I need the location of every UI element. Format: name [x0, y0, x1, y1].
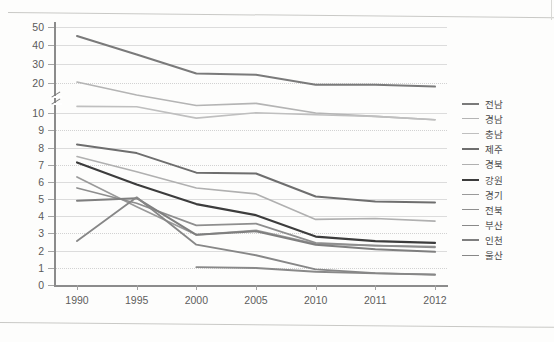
legend-label-울산: 울산 [485, 248, 503, 262]
x-tick-1995 [137, 285, 138, 290]
legend-label-부산: 부산 [485, 218, 503, 232]
legend-item-경남[interactable]: 경남 [462, 111, 548, 126]
legend-item-전남[interactable]: 전남 [462, 96, 548, 111]
legend-label-강원: 강원 [485, 173, 503, 187]
legend-label-전북: 전북 [485, 203, 503, 217]
legend-swatch-전남 [462, 103, 479, 105]
legend-item-경북[interactable]: 경북 [462, 157, 548, 172]
line-chart: 50403020109876543210 1990199520002005201… [0, 0, 554, 342]
legend-label-경기: 경기 [485, 188, 503, 202]
series-line-충남 [77, 106, 435, 119]
legend-label-경북: 경북 [485, 157, 503, 171]
legend-item-제주[interactable]: 제주 [462, 142, 548, 157]
legend-label-인천: 인천 [485, 233, 503, 247]
legend-item-울산[interactable]: 울산 [462, 248, 548, 263]
series-line-전북 [77, 188, 435, 247]
legend-item-전북[interactable]: 전북 [462, 202, 548, 217]
x-tick-2011 [375, 285, 376, 290]
x-tick-2010 [316, 285, 317, 290]
x-tick-1990 [77, 285, 78, 290]
legend-label-제주: 제주 [485, 142, 503, 156]
series-line-경남 [77, 82, 435, 120]
legend-swatch-경기 [462, 194, 479, 195]
x-tick-2012 [435, 285, 436, 290]
legend-swatch-부산 [462, 225, 479, 226]
x-tick-2005 [256, 285, 257, 290]
legend-item-충남[interactable]: 충남 [462, 126, 548, 141]
legend-swatch-울산 [462, 255, 479, 256]
series-line-울산 [77, 197, 435, 274]
legend-swatch-충남 [462, 133, 479, 134]
scanned-page: 50403020109876543210 1990199520002005201… [0, 0, 554, 342]
legend-label-경남: 경남 [485, 112, 503, 126]
legend-swatch-경북 [462, 164, 479, 165]
x-tick-2000 [196, 285, 197, 290]
legend-swatch-강원 [462, 179, 479, 181]
legend-item-부산[interactable]: 부산 [462, 218, 548, 233]
legend-swatch-경남 [462, 118, 479, 119]
legend-label-전남: 전남 [485, 97, 503, 111]
legend-item-인천[interactable]: 인천 [462, 233, 548, 248]
series-line-인천 [77, 198, 435, 252]
legend-swatch-제주 [462, 148, 479, 150]
legend-item-강원[interactable]: 강원 [462, 172, 548, 187]
series-line-전남 [77, 36, 435, 87]
chart-legend: 전남경남충남제주경북강원경기전북부산인천울산 [462, 96, 548, 263]
series-line-경기 [77, 177, 435, 247]
legend-label-충남: 충남 [485, 127, 503, 141]
legend-swatch-인천 [462, 239, 479, 241]
legend-item-경기[interactable]: 경기 [462, 187, 548, 202]
series-line-경북 [77, 157, 435, 222]
legend-swatch-전북 [462, 209, 479, 210]
